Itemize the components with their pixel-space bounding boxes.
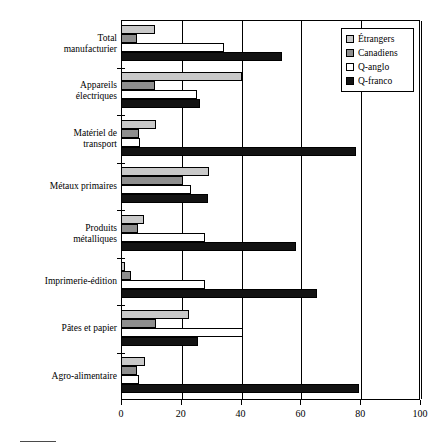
bar bbox=[121, 120, 156, 129]
bar bbox=[121, 194, 208, 203]
bar bbox=[121, 215, 144, 224]
category-label: Agro-alimentaire bbox=[0, 371, 117, 382]
series-2-swatch-icon bbox=[346, 63, 354, 71]
value-tick-label: 20 bbox=[176, 408, 186, 420]
bar bbox=[121, 319, 156, 328]
bar bbox=[121, 384, 359, 393]
bar bbox=[121, 90, 197, 99]
legend-label: Canadiens bbox=[358, 48, 398, 59]
category-label: Matériel detransport bbox=[0, 128, 117, 150]
bar bbox=[121, 81, 155, 90]
bar bbox=[121, 242, 296, 251]
bar bbox=[121, 280, 205, 289]
bar bbox=[121, 271, 131, 280]
bar bbox=[121, 289, 317, 298]
bar-group bbox=[121, 120, 420, 158]
value-tick-label: 40 bbox=[236, 408, 246, 420]
bar bbox=[121, 25, 155, 34]
bar bbox=[121, 138, 140, 147]
category-label: Appareilsélectriques bbox=[0, 80, 117, 102]
bar-group bbox=[121, 215, 420, 253]
value-tick-label: 60 bbox=[295, 408, 305, 420]
legend-item-q-franco: Q-franco bbox=[346, 74, 410, 88]
category-label: Imprimerie-édition bbox=[0, 276, 117, 287]
category-label: Pâtes et papier bbox=[0, 323, 117, 334]
bar bbox=[121, 43, 224, 52]
bar bbox=[121, 167, 209, 176]
category-label: Produitsmétalliques bbox=[0, 223, 117, 245]
value-tick bbox=[420, 400, 421, 405]
category-axis-labels: TotalmanufacturierAppareilsélectriquesMa… bbox=[0, 20, 117, 400]
gridline bbox=[421, 21, 422, 399]
bar bbox=[121, 176, 183, 185]
legend-label: Q-anglo bbox=[358, 62, 389, 73]
bar bbox=[121, 147, 356, 156]
value-tick bbox=[181, 400, 182, 405]
bar bbox=[121, 262, 125, 271]
value-tick bbox=[300, 400, 301, 405]
legend-label: Étrangers bbox=[358, 34, 394, 45]
bar-group bbox=[121, 262, 420, 300]
bar bbox=[121, 34, 137, 43]
legend-item-q-anglo: Q-anglo bbox=[346, 60, 410, 74]
series-1-swatch-icon bbox=[346, 49, 354, 57]
series-0-swatch-icon bbox=[346, 35, 354, 43]
value-tick-label: 100 bbox=[413, 408, 428, 420]
bar bbox=[121, 310, 189, 319]
value-tick bbox=[360, 400, 361, 405]
bar bbox=[121, 52, 282, 61]
category-label: Totalmanufacturier bbox=[0, 33, 117, 55]
bar bbox=[121, 99, 200, 108]
horizontal-bar-chart: TotalmanufacturierAppareilsélectriquesMa… bbox=[0, 0, 444, 448]
bar bbox=[121, 337, 198, 346]
bar bbox=[121, 224, 138, 233]
bar-group bbox=[121, 310, 420, 348]
bar bbox=[121, 357, 145, 366]
legend-label: Q-franco bbox=[358, 76, 392, 87]
bar bbox=[121, 366, 137, 375]
chart-legend: Étrangers Canadiens Q-anglo Q-franco bbox=[341, 28, 414, 92]
category-label: Métaux primaires bbox=[0, 181, 117, 192]
legend-item-canadiens: Canadiens bbox=[346, 46, 410, 60]
series-3-swatch-icon bbox=[346, 77, 354, 85]
value-tick bbox=[241, 400, 242, 405]
value-tick-label: 80 bbox=[355, 408, 365, 420]
bar bbox=[121, 72, 242, 81]
footnote-rule bbox=[20, 441, 56, 442]
bar bbox=[121, 185, 191, 194]
bar bbox=[121, 233, 205, 242]
value-axis: 020406080100 bbox=[121, 400, 420, 401]
bar bbox=[121, 129, 139, 138]
bar-group bbox=[121, 357, 420, 395]
bar bbox=[121, 328, 243, 337]
value-tick bbox=[121, 400, 122, 405]
legend-item-etrangers: Étrangers bbox=[346, 32, 410, 46]
bar bbox=[121, 375, 139, 384]
bar-group bbox=[121, 167, 420, 205]
value-tick-label: 0 bbox=[119, 408, 124, 420]
